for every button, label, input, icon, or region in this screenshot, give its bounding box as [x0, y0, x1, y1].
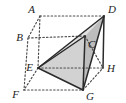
figure-canvas: ABCDEFGH [0, 0, 126, 103]
geometry-figure: ABCDEFGH [0, 0, 126, 103]
vertex-label-G: G [86, 90, 94, 102]
edge-A-E [38, 16, 40, 68]
vertex-label-B: B [16, 31, 23, 43]
edge-A-B [28, 16, 40, 38]
vertex-label-C: C [88, 38, 96, 50]
vertex-label-E: E [25, 61, 33, 73]
vertex-label-F: F [11, 88, 19, 100]
vertex-label-A: A [27, 3, 35, 15]
vertex-label-D: D [107, 3, 116, 15]
edge-D-H [103, 16, 104, 68]
vertex-label-H: H [106, 62, 116, 74]
